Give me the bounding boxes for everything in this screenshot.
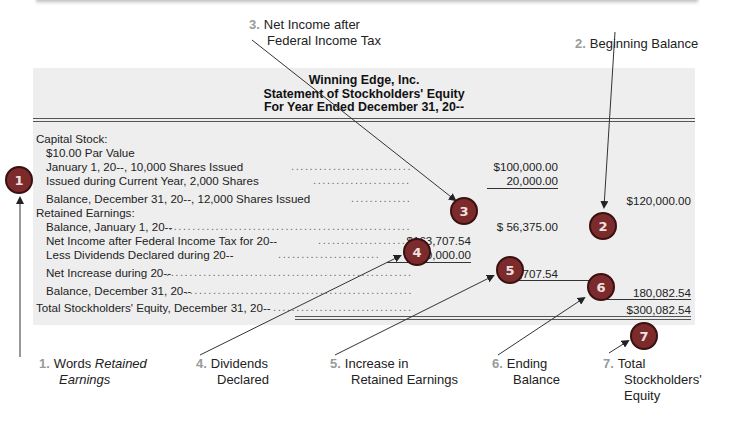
header-rule-top — [33, 118, 695, 119]
statement-title: Statement of Stockholders' Equity — [33, 88, 695, 102]
leader-dots: ........................................… — [169, 220, 411, 233]
amount-capital-balance: $120,000.00 — [595, 194, 691, 207]
callout-6: 6.Ending Balance — [492, 356, 560, 388]
leader-dots: ........................................… — [166, 266, 411, 279]
amount-jan1-shares: $100,000.00 — [473, 160, 558, 173]
row-jan1-shares: January 1, 20--, 10,000 Shares Issued — [46, 160, 243, 173]
amount-issued-current-year: 20,000.00 — [473, 174, 558, 187]
total-double-rule-top — [295, 316, 691, 317]
row-total-equity: Total Stockholders' Equity, December 31,… — [36, 301, 271, 314]
underline-re-balance — [598, 299, 691, 300]
amount-total-equity: $300,082.54 — [595, 303, 691, 316]
callout-4: 4.Dividends Declared — [196, 356, 269, 388]
leader-dots: ............................... — [313, 174, 411, 187]
callout-2: 2.Beginning Balance — [575, 36, 698, 52]
row-capital-stock: Capital Stock: — [36, 132, 108, 145]
page-top-shadow — [36, 0, 698, 4]
statement-period: For Year Ended December 31, 20-- — [33, 101, 695, 115]
arrow-7 — [609, 341, 628, 353]
row-par-value: $10.00 Par Value — [46, 146, 135, 159]
callout-number: 4. — [196, 356, 207, 371]
row-re-balance-jan1: Balance, January 1, 20-- — [46, 220, 172, 233]
leader-dots: ........................................… — [185, 284, 411, 297]
callout-number: 1. — [39, 356, 50, 371]
row-retained-earnings: Retained Earnings: — [36, 206, 135, 219]
total-double-rule-bottom — [295, 319, 691, 320]
underline-net-increase — [507, 280, 601, 281]
badge-4: 4 — [403, 238, 431, 266]
callout-3: 3.Net Income after Federal Income Tax — [249, 17, 381, 49]
row-issued-current-year: Issued during Current Year, 2,000 Shares — [46, 174, 259, 187]
callout-5: 5.Increase in Retained Earnings — [330, 356, 458, 388]
callout-number: 3. — [249, 17, 260, 32]
row-re-balance-dec31: Balance, December 31, 20-- — [46, 284, 191, 297]
badge-2: 2 — [589, 212, 617, 240]
callout-number: 6. — [492, 356, 503, 371]
leader-dots: ............................... — [278, 248, 378, 261]
row-net-income: Net Income after Federal Income Tax for … — [46, 234, 277, 247]
underline-capital-subtotal — [487, 188, 558, 189]
statement-header: Winning Edge, Inc. Statement of Stockhol… — [33, 74, 695, 115]
amount-re-balance-jan1: $ 56,375.00 — [473, 220, 558, 233]
row-net-increase: Net Increase during 20-- — [46, 266, 171, 279]
badge-7: 7 — [630, 322, 658, 350]
company-name: Winning Edge, Inc. — [33, 74, 695, 88]
badge-1: 1 — [5, 166, 33, 194]
leader-dots: ............................... — [351, 192, 411, 205]
row-dividends-declared: Less Dividends Declared during 20-- — [46, 248, 234, 261]
leader-dots: ............................... — [273, 301, 411, 314]
row-capital-balance-dec31: Balance, December 31, 20--, 12,000 Share… — [46, 192, 310, 205]
callout-1: 1.Words Retained Earnings — [39, 356, 147, 388]
badge-3: 3 — [450, 197, 478, 225]
badge-5: 5 — [496, 256, 524, 284]
leader-dots: ............................... — [291, 160, 411, 173]
callout-number: 5. — [330, 356, 341, 371]
callout-number: 2. — [575, 36, 586, 51]
underline-dividends — [387, 262, 471, 263]
badge-6: 6 — [587, 273, 615, 301]
header-rule-bottom — [33, 121, 695, 122]
callout-number: 7. — [603, 356, 614, 371]
callout-7: 7.Total Stockholders' Equity — [603, 356, 702, 404]
